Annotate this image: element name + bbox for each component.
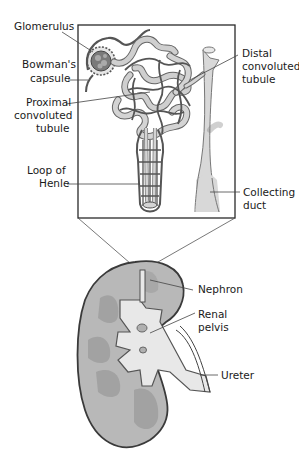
label-bowmans-2: capsule — [30, 72, 70, 84]
kidney-nephron-diagram: Glomerulus Bowman's capsule Proximal con… — [0, 0, 299, 458]
label-bowmans-1: Bowman's — [22, 58, 76, 70]
label-collecting-2: duct — [243, 199, 266, 211]
label-distal-3: tubule — [242, 73, 275, 85]
label-loop-2: Henle — [39, 177, 69, 189]
label-nephron: Nephron — [198, 283, 243, 295]
label-proximal-3: tubule — [36, 122, 69, 134]
label-renal-2: pelvis — [198, 321, 229, 333]
label-proximal-2: convoluted — [14, 109, 72, 121]
label-distal-1: Distal — [242, 47, 272, 59]
label-proximal-1: Proximal — [26, 96, 71, 108]
label-distal-2: convoluted — [242, 60, 299, 72]
label-renal-1: Renal — [198, 308, 227, 320]
nephron-strip — [140, 270, 145, 302]
label-ureter: Ureter — [221, 369, 255, 381]
label-loop-1: Loop of — [27, 164, 66, 176]
label-collecting-1: Collecting — [243, 186, 295, 198]
label-glomerulus: Glomerulus — [14, 20, 74, 32]
